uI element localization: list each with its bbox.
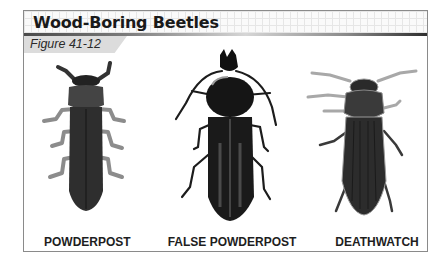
caption-deathwatch: DEATHWATCH [322, 235, 432, 249]
false-powderpost-beetle-icon [164, 47, 294, 227]
figure-tag: Figure 41-12 [24, 36, 127, 53]
caption-powderpost: POWDERPOST [44, 235, 129, 249]
figure-panel: Wood-Boring Beetles Figure 41-12 [23, 10, 428, 252]
title-band: Wood-Boring Beetles [24, 11, 427, 33]
title-divider [24, 33, 427, 36]
deathwatch-beetle-icon [304, 61, 424, 221]
figure-label: Figure 41-12 [30, 37, 101, 51]
powderpost-beetle-icon [36, 61, 136, 221]
caption-false-powderpost: FALSE POWDERPOST [162, 235, 302, 249]
page-title: Wood-Boring Beetles [33, 13, 219, 32]
